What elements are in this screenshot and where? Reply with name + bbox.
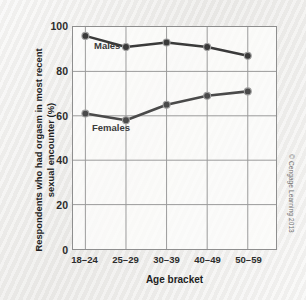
- data-point-males-40–49: [204, 44, 211, 51]
- x-axis-title: Age bracket: [72, 274, 277, 285]
- figure-container: 020406080100 Males Females 18–2425–2930–…: [0, 0, 306, 300]
- plot-area: [72, 26, 277, 250]
- data-point-females-40–49: [204, 92, 211, 99]
- data-point-males-25–29: [123, 44, 130, 51]
- data-point-females-18–24: [82, 110, 89, 117]
- data-point-males-18–24: [82, 32, 89, 39]
- x-tick-50–59: 50–59: [222, 254, 276, 265]
- data-series-layer: [73, 27, 276, 249]
- data-point-males-50–59: [244, 52, 251, 59]
- data-point-females-50–59: [244, 88, 251, 95]
- series-label-males: Males: [94, 40, 120, 51]
- data-point-females-30–39: [163, 101, 170, 108]
- y-axis-title-line1: Respondents who had orgasm in most recen…: [33, 42, 45, 258]
- data-point-males-30–39: [163, 39, 170, 46]
- copyright-credit: © Cengage Learning 2013: [288, 119, 295, 269]
- y-axis-title: Respondents who had orgasm in most recen…: [33, 42, 57, 258]
- y-tick-100: 100: [34, 20, 68, 32]
- series-label-females: Females: [92, 122, 130, 133]
- y-axis-title-line2: sexual encounter (%): [45, 42, 57, 258]
